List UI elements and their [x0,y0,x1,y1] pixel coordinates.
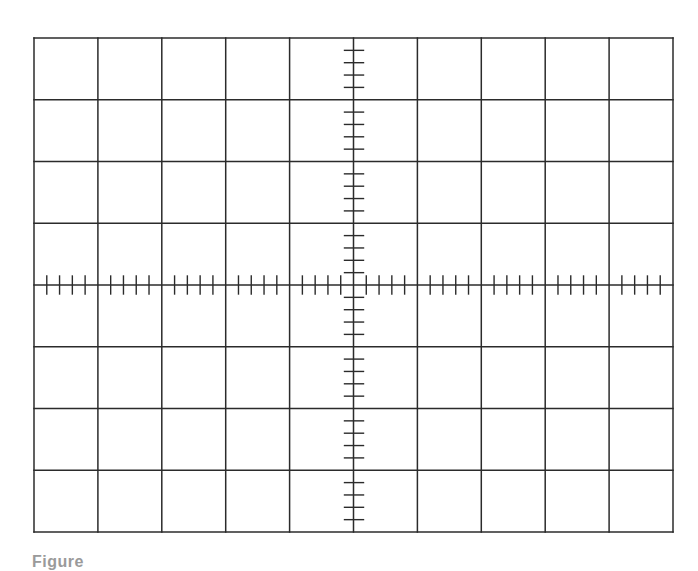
figure-caption: Figure [32,553,84,571]
